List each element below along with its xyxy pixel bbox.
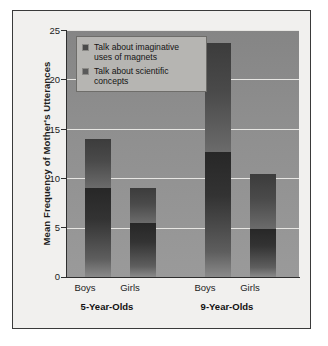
legend-item-imaginative: Talk about imaginativeuses of magnets bbox=[82, 42, 201, 62]
y-tick-label-10: 10 bbox=[34, 173, 60, 184]
chart-figure: Mean Frequency of Mother's Utterances 25… bbox=[0, 0, 328, 346]
chart-legend: Talk about imaginativeuses of magnets Ta… bbox=[76, 36, 207, 92]
bar-segment-imaginative bbox=[250, 174, 276, 229]
x-tick-label-5-year-olds-girls: Girls bbox=[105, 282, 155, 293]
legend-label-scientific-line2: concepts bbox=[94, 76, 128, 86]
bar-5-year-olds-boys bbox=[85, 139, 111, 277]
x-tick-label-5-year-olds-boys: Boys bbox=[60, 282, 110, 293]
bar-9-year-olds-boys bbox=[205, 43, 231, 277]
legend-label-imaginative-line1: Talk about imaginative bbox=[94, 42, 179, 52]
bar-segment-imaginative bbox=[205, 43, 231, 152]
y-tick-label-25: 25 bbox=[34, 25, 60, 36]
bar-5-year-olds-girls bbox=[130, 188, 156, 277]
legend-swatch-imaginative-icon bbox=[82, 44, 89, 51]
bar-segment-scientific bbox=[205, 152, 231, 277]
gridline-15 bbox=[66, 129, 299, 130]
legend-label-scientific-line1: Talk about scientific bbox=[94, 66, 169, 76]
y-tick-label-0: 0 bbox=[34, 271, 60, 282]
x-tick-label-9-year-olds-girls: Girls bbox=[225, 282, 275, 293]
legend-label-imaginative: Talk about imaginativeuses of magnets bbox=[94, 42, 179, 62]
bar-9-year-olds-girls bbox=[250, 174, 276, 277]
legend-item-scientific: Talk about scientificconcepts bbox=[82, 66, 201, 86]
bar-segment-scientific bbox=[85, 188, 111, 277]
legend-swatch-scientific-icon bbox=[82, 68, 89, 75]
x-group-label-5-year-olds: 5-Year-Olds bbox=[52, 301, 162, 312]
y-axis-spine bbox=[66, 30, 67, 278]
bar-segment-imaginative bbox=[130, 188, 156, 223]
bar-segment-imaginative bbox=[85, 139, 111, 188]
bar-segment-scientific bbox=[130, 223, 156, 277]
legend-label-imaginative-line2: uses of magnets bbox=[94, 52, 157, 62]
y-tick-label-5: 5 bbox=[34, 222, 60, 233]
x-group-label-9-year-olds: 9-Year-Olds bbox=[172, 301, 282, 312]
gridline-25 bbox=[66, 30, 299, 31]
x-tick-label-9-year-olds-boys: Boys bbox=[180, 282, 230, 293]
legend-label-scientific: Talk about scientificconcepts bbox=[94, 66, 169, 86]
bar-segment-scientific bbox=[250, 229, 276, 277]
y-tick-label-15: 15 bbox=[34, 124, 60, 135]
x-axis-spine bbox=[66, 277, 300, 278]
y-tick-label-20: 20 bbox=[34, 74, 60, 85]
